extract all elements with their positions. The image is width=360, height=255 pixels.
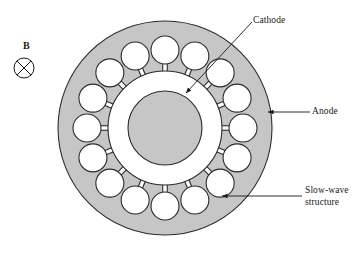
label-slow-wave-structure: Slow-wave structure	[305, 185, 360, 208]
label-cathode: Cathode	[253, 15, 285, 27]
cathode-disc	[128, 91, 202, 165]
magnetron-cross-section-svg	[0, 0, 360, 255]
diagram-canvas: Cathode Anode Slow-wave structure B	[0, 0, 360, 255]
label-slow-wave-line2: structure	[305, 197, 339, 207]
magnetic-field-symbol	[14, 58, 34, 78]
label-magnetic-field: B	[23, 40, 30, 52]
label-anode: Anode	[312, 106, 338, 118]
cathode	[128, 91, 202, 165]
label-slow-wave-line1: Slow-wave	[305, 185, 349, 195]
